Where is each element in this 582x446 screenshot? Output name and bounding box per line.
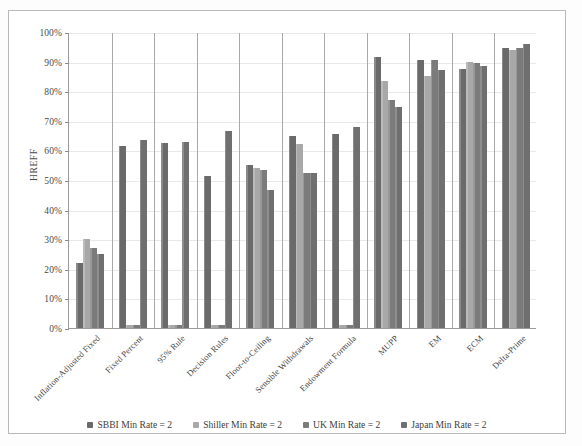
legend-label: UK Min Rate = 2	[313, 419, 380, 430]
bar	[126, 325, 133, 328]
bar	[140, 140, 147, 328]
bar-group	[69, 33, 112, 328]
x-axis-tick-label: Delta-Prime	[490, 333, 528, 371]
bar	[90, 248, 97, 328]
bar	[253, 168, 260, 328]
bar	[516, 48, 523, 328]
bar	[353, 127, 360, 328]
legend-swatch-icon	[193, 422, 199, 428]
bar	[204, 176, 211, 328]
x-axis-tick-label: Fixed Percent	[103, 333, 145, 375]
bar	[218, 325, 225, 328]
x-axis-tick-label: Decision Rules	[184, 333, 230, 379]
bar	[438, 70, 445, 328]
bar-group	[282, 33, 325, 328]
bar-group	[112, 33, 155, 328]
legend-swatch-icon	[401, 422, 407, 428]
bar	[83, 239, 90, 328]
bar	[374, 57, 381, 328]
bar	[523, 44, 530, 328]
y-axis-title: HREFF	[29, 148, 39, 181]
y-axis-tick-label: 80%	[44, 87, 62, 97]
x-axis-tick-label: MUPP	[376, 333, 400, 357]
legend-item[interactable]: UK Min Rate = 2	[303, 419, 380, 430]
bar-group	[494, 33, 537, 328]
y-axis-tick-label: 40%	[44, 206, 62, 216]
bar	[296, 144, 303, 328]
y-axis-tick-label: 0%	[49, 324, 62, 334]
bar	[97, 254, 104, 328]
bar	[346, 325, 353, 328]
bar	[417, 60, 424, 328]
bar	[388, 100, 395, 328]
bar	[424, 76, 431, 328]
bar	[211, 325, 218, 328]
bar-group	[154, 33, 197, 328]
bar	[502, 48, 509, 328]
y-axis-tick-label: 10%	[44, 294, 62, 304]
bar	[466, 62, 473, 328]
x-axis-tick-label: EM	[426, 333, 442, 349]
bar	[431, 60, 438, 328]
chart-legend: SBBI Min Rate = 2Shiller Min Rate = 2UK …	[9, 419, 565, 430]
bar	[332, 134, 339, 328]
bar	[480, 66, 487, 328]
y-axis-tick-label: 60%	[44, 146, 62, 156]
bar	[182, 142, 189, 328]
bar	[473, 63, 480, 328]
bar-group	[324, 33, 367, 328]
x-axis-tick-label: 95% Rule	[155, 333, 187, 365]
bar	[175, 325, 182, 328]
x-axis-tick-label: ECM	[465, 333, 486, 354]
y-axis-tick-label: 90%	[44, 58, 62, 68]
chart-figure: HREFF 0%10%20%30%40%50%60%70%80%90%100% …	[0, 0, 582, 446]
bar	[381, 81, 388, 328]
bar	[509, 50, 516, 328]
legend-item[interactable]: Shiller Min Rate = 2	[193, 419, 282, 430]
bar-group	[452, 33, 495, 328]
bar	[310, 173, 317, 328]
y-axis-tick-label: 100%	[39, 28, 62, 38]
bar	[339, 325, 346, 328]
bar	[225, 131, 232, 328]
legend-item[interactable]: Japan Min Rate = 2	[401, 419, 486, 430]
bar-group	[367, 33, 410, 328]
bar-group	[197, 33, 240, 328]
legend-swatch-icon	[87, 422, 93, 428]
x-axis-tick-label: Inflation-Adjusted Fixed	[32, 333, 102, 403]
bar	[76, 263, 83, 328]
y-axis-tick-label: 50%	[44, 176, 62, 186]
y-axis-tick-label: 70%	[44, 117, 62, 127]
bar-group	[409, 33, 452, 328]
bar	[133, 325, 140, 328]
bar	[303, 173, 310, 328]
bar	[260, 170, 267, 328]
legend-swatch-icon	[303, 422, 309, 428]
bar	[161, 143, 168, 328]
y-axis-tick-label: 20%	[44, 265, 62, 275]
chart-frame: HREFF 0%10%20%30%40%50%60%70%80%90%100% …	[8, 10, 566, 434]
bar	[395, 107, 402, 328]
bar	[119, 146, 126, 328]
plot-area: 0%10%20%30%40%50%60%70%80%90%100%	[68, 33, 536, 329]
legend-label: Japan Min Rate = 2	[411, 419, 486, 430]
bar	[246, 165, 253, 328]
bar	[289, 136, 296, 328]
legend-item[interactable]: SBBI Min Rate = 2	[87, 419, 172, 430]
bar	[168, 325, 175, 328]
legend-label: Shiller Min Rate = 2	[203, 419, 282, 430]
bar	[267, 190, 274, 328]
y-axis-tick	[65, 329, 69, 330]
legend-label: SBBI Min Rate = 2	[97, 419, 172, 430]
bar	[459, 69, 466, 328]
bar-group	[239, 33, 282, 328]
y-axis-tick-label: 30%	[44, 235, 62, 245]
